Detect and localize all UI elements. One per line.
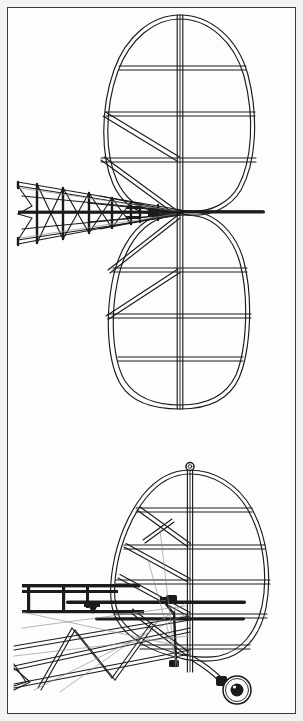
rudder-rib bbox=[136, 508, 252, 512]
rib bbox=[118, 357, 243, 361]
elevator-ribs-lower bbox=[108, 268, 251, 361]
plan-view-group bbox=[18, 15, 265, 409]
drawing-plate: .ink { fill:none; stroke:#1b1b1b; stroke… bbox=[0, 0, 303, 721]
rudder-post bbox=[187, 470, 192, 672]
tail-wheel bbox=[223, 676, 251, 704]
elevator-trailing-edge-bar bbox=[180, 210, 265, 213]
diagonal-brace bbox=[108, 215, 180, 273]
rib bbox=[108, 314, 251, 318]
rudder-ribs bbox=[114, 508, 270, 649]
elevator-outline-lower bbox=[108, 211, 249, 409]
elevator-outline-upper bbox=[104, 15, 255, 215]
rudder-diagonal-members bbox=[118, 507, 191, 656]
elevator-ribs-upper bbox=[101, 66, 256, 162]
diagonal-brace bbox=[103, 112, 180, 161]
technical-drawing: .ink { fill:none; stroke:#1b1b1b; stroke… bbox=[0, 0, 303, 721]
rudder-top-fitting-icon bbox=[186, 463, 194, 471]
diagonal-brace bbox=[106, 269, 180, 320]
rib bbox=[101, 158, 256, 162]
rudder-rib bbox=[124, 545, 265, 549]
profile-view-group bbox=[14, 463, 270, 705]
rib bbox=[106, 112, 255, 116]
diagonal-brace bbox=[143, 519, 174, 543]
